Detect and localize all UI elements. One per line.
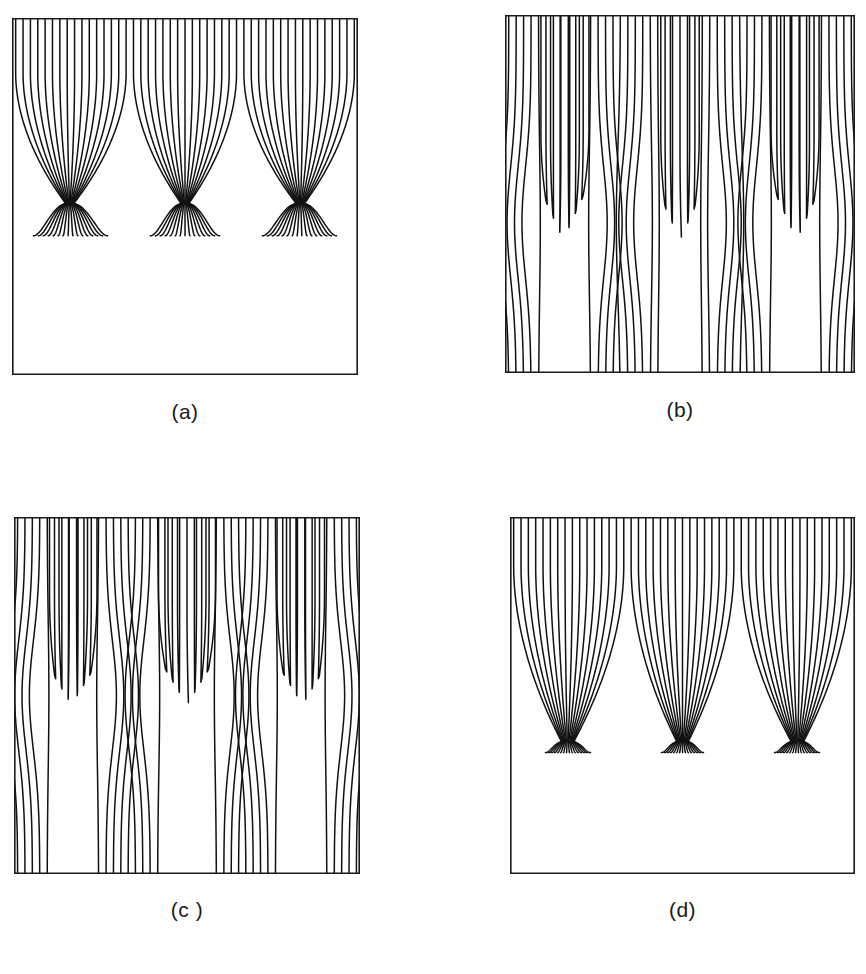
streamline: [687, 15, 689, 223]
streamline: [539, 15, 541, 373]
streamline: [90, 517, 97, 675]
streamline: [565, 517, 567, 753]
panel-c-caption: (c ): [14, 898, 360, 922]
streamline: [680, 15, 681, 237]
panel-d: [510, 517, 855, 874]
streamline: [683, 517, 690, 753]
panel-c-plot: [14, 517, 360, 874]
streamline: [305, 517, 306, 699]
streamline: [551, 15, 554, 218]
panel-b-streamlines: [505, 15, 855, 373]
streamline: [187, 517, 188, 703]
panel-c: [14, 517, 360, 874]
panel-d-streamlines: [514, 517, 852, 753]
streamline: [790, 15, 791, 228]
streamline: [701, 15, 703, 373]
streamline: [803, 517, 844, 753]
streamline: [650, 15, 652, 373]
streamline: [318, 517, 324, 679]
streamline: [266, 18, 298, 236]
streamline: [820, 15, 822, 373]
panel-a-streamlines: [16, 18, 355, 236]
streamline: [77, 517, 78, 696]
streamline: [287, 517, 291, 686]
panel-a-plot: [12, 18, 358, 375]
panel-a: [12, 18, 358, 375]
streamline: [708, 15, 710, 373]
streamline: [670, 15, 672, 223]
streamline: [312, 517, 315, 689]
panel-a-caption: (a): [12, 400, 358, 424]
streamline: [661, 15, 666, 209]
streamline: [50, 517, 56, 679]
streamline: [239, 517, 249, 874]
streamline: [277, 517, 284, 675]
streamline: [68, 517, 69, 699]
streamline: [325, 517, 327, 874]
streamline: [771, 15, 778, 200]
streamline: [236, 517, 246, 874]
streamline: [72, 18, 104, 236]
panel-d-plot: [510, 517, 855, 874]
streamline: [128, 517, 138, 874]
streamline: [47, 517, 49, 874]
streamline: [694, 15, 699, 209]
figure-root: (a)(b)(c )(d): [0, 0, 866, 974]
streamline: [168, 517, 173, 682]
streamline: [59, 517, 62, 689]
streamline: [214, 517, 216, 874]
streamline: [178, 517, 180, 692]
panel-b-caption: (b): [505, 398, 855, 422]
streamline: [738, 15, 747, 373]
streamline: [568, 15, 569, 228]
panel-b-plot: [505, 15, 855, 373]
streamline: [807, 15, 810, 218]
streamline: [194, 517, 196, 692]
streamline: [125, 517, 135, 874]
streamline: [613, 15, 622, 373]
streamline: [813, 15, 819, 204]
streamline: [560, 15, 561, 232]
streamline: [521, 517, 562, 753]
streamline: [575, 15, 579, 214]
streamline: [201, 517, 206, 682]
streamline: [658, 15, 660, 373]
panel-b: [505, 15, 855, 373]
streamline: [798, 517, 800, 753]
streamline: [781, 15, 785, 214]
panel-c-streamlines: [14, 517, 360, 874]
streamline: [799, 15, 800, 232]
streamline: [83, 517, 87, 686]
streamline: [296, 517, 297, 696]
streamline: [541, 15, 547, 204]
streamline: [675, 517, 682, 753]
streamline: [582, 15, 589, 200]
panel-d-caption: (d): [510, 898, 855, 922]
